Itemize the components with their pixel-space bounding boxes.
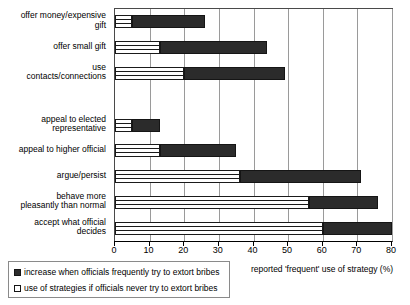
legend-label-increase: increase when officials frequently try t… bbox=[24, 267, 219, 277]
bar-segment-base bbox=[115, 170, 240, 183]
category-label-line: contacts/connections bbox=[0, 72, 106, 82]
x-axis-tick-label: 60 bbox=[307, 245, 337, 256]
chart-legend: increase when officials frequently try t… bbox=[8, 261, 230, 298]
legend-item-increase: increase when officials frequently try t… bbox=[14, 265, 219, 279]
category-label-line: argue/persist bbox=[0, 171, 106, 181]
category-label-line: gift bbox=[0, 21, 106, 31]
bar-segment-base bbox=[115, 196, 309, 209]
bar-segment-increase bbox=[309, 196, 378, 209]
bar-row bbox=[115, 67, 392, 80]
legend-swatch-light-icon bbox=[14, 285, 21, 292]
bar-row bbox=[115, 196, 392, 209]
x-axis-tick-label: 0 bbox=[99, 245, 129, 256]
bar-segment-increase bbox=[184, 67, 284, 80]
bar-row bbox=[115, 41, 392, 54]
x-axis-tick-label: 10 bbox=[134, 245, 164, 256]
bar-segment-increase bbox=[240, 170, 361, 183]
category-label-line: representative bbox=[0, 124, 106, 134]
bar-row bbox=[115, 170, 392, 183]
bar-segment-base bbox=[115, 67, 184, 80]
category-label: offer small gift bbox=[0, 42, 106, 52]
category-label: appeal to higher official bbox=[0, 145, 106, 155]
legend-swatch-dark-icon bbox=[14, 269, 21, 276]
category-label: accept what officialdecides bbox=[0, 218, 106, 237]
legend-item-base: use of strategies if officials never try… bbox=[14, 281, 218, 295]
bar-segment-increase bbox=[160, 41, 267, 54]
bar-segment-base bbox=[115, 41, 160, 54]
x-axis-title: reported 'frequent' use of strategy (%) bbox=[236, 264, 408, 275]
bar-segment-base bbox=[115, 144, 160, 157]
bar-row bbox=[115, 15, 392, 28]
x-axis-tick-label: 30 bbox=[203, 245, 233, 256]
category-label-line: decides bbox=[0, 227, 106, 237]
category-label: behave morepleasantly than normal bbox=[0, 192, 106, 211]
category-label: usecontacts/connections bbox=[0, 63, 106, 82]
bar-segment-increase bbox=[132, 119, 160, 132]
category-label-line: pleasantly than normal bbox=[0, 201, 106, 211]
category-label: appeal to electedrepresentative bbox=[0, 115, 106, 134]
category-label-line: offer small gift bbox=[0, 42, 106, 52]
x-axis-tick-label: 40 bbox=[238, 245, 268, 256]
bar-segment-base bbox=[115, 222, 323, 235]
category-label-line: offer money/expensive bbox=[0, 11, 106, 21]
category-label: argue/persist bbox=[0, 171, 106, 181]
bar-segment-base bbox=[115, 119, 132, 132]
bar-row bbox=[115, 144, 392, 157]
category-axis-labels: offer money/expensivegiftoffer small gif… bbox=[0, 8, 110, 240]
legend-label-base: use of strategies if officials never try… bbox=[24, 283, 218, 293]
bar-chart: offer money/expensivegiftoffer small gif… bbox=[0, 0, 410, 305]
x-axis-tick-label: 80 bbox=[376, 245, 406, 256]
plot-area bbox=[114, 8, 393, 242]
bar-segment-increase bbox=[323, 222, 392, 235]
x-axis-tick-label: 50 bbox=[272, 245, 302, 256]
bar-segment-increase bbox=[160, 144, 236, 157]
bar-segment-base bbox=[115, 15, 132, 28]
x-axis-tick-label: 70 bbox=[341, 245, 371, 256]
x-axis-tick-labels: 01020304050607080 bbox=[0, 245, 410, 257]
category-label: offer money/expensivegift bbox=[0, 11, 106, 30]
bar-row bbox=[115, 119, 392, 132]
gridline bbox=[392, 9, 393, 241]
bar-row bbox=[115, 222, 392, 235]
category-label-line: appeal to higher official bbox=[0, 145, 106, 155]
x-axis-tick-label: 20 bbox=[168, 245, 198, 256]
bar-segment-increase bbox=[132, 15, 205, 28]
plot-wrapper: offer money/expensivegiftoffer small gif… bbox=[0, 0, 410, 250]
